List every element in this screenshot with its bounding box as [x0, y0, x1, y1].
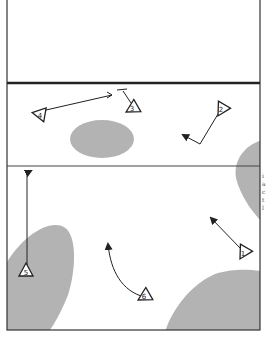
movement-player-1 [211, 218, 240, 248]
player-number-4: 4 [38, 112, 43, 120]
zone-left-bottom [7, 225, 74, 332]
margin-char: l [262, 204, 266, 212]
margin-text-fragment: i a c t l [262, 172, 266, 212]
player-number-5: 5 [24, 269, 28, 277]
player-number-2: 2 [219, 106, 223, 114]
zone-right-edge [236, 140, 262, 222]
margin-char: c [262, 188, 266, 196]
zone-right-bottom [165, 270, 262, 332]
movement-player-2 [183, 114, 218, 144]
margin-char: t [262, 196, 266, 204]
movement-player-3 [123, 91, 131, 103]
margin-char: a [262, 180, 266, 188]
movement-player-6 [108, 244, 141, 296]
margin-char: i [262, 172, 266, 180]
block-mark-player-4 [107, 92, 112, 98]
player-number-1: 1 [241, 250, 245, 258]
zone-center-back [70, 120, 134, 158]
block-mark-player-3 [117, 89, 127, 90]
court-diagram: 1 2 3 4 5 6 [0, 0, 266, 342]
player-number-3: 3 [130, 105, 134, 113]
movement-player-4 [46, 95, 112, 110]
player-number-6: 6 [142, 293, 147, 301]
